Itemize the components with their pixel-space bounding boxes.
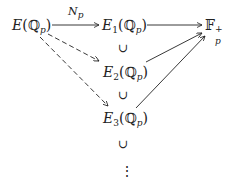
node-e2-qp: E2(ℚp) xyxy=(103,64,148,85)
paren-close: ) xyxy=(142,110,147,126)
node-e3-letter: E xyxy=(103,110,113,126)
field-q: ℚ xyxy=(124,64,136,80)
vertical-ellipsis: ⋮ xyxy=(120,164,134,178)
node-e1-letter: E xyxy=(102,17,112,33)
paren-close: ) xyxy=(142,64,147,80)
node-e-qp: E(ℚp) xyxy=(12,17,51,38)
node-fp-plus: 𝔽+p xyxy=(205,17,223,33)
node-e-letter: E xyxy=(12,17,22,33)
arrow-label-np: Np xyxy=(68,5,83,20)
field-q: ℚ xyxy=(124,110,136,126)
paren-close: ) xyxy=(141,17,146,33)
subset-symbol-3: ∪ xyxy=(118,138,128,150)
fp-sub: p xyxy=(215,33,221,49)
node-e2-letter: E xyxy=(103,64,113,80)
field-q: ℚ xyxy=(123,17,135,33)
field-f: 𝔽 xyxy=(205,17,215,33)
dashed-arrow-e-to-e3 xyxy=(40,37,108,106)
field-q: ℚ xyxy=(28,17,40,33)
label-n: N xyxy=(68,5,78,18)
node-e3-qp: E3(ℚp) xyxy=(103,110,148,131)
subset-symbol-2: ∪ xyxy=(118,89,128,101)
dashed-arrow-e-to-e2 xyxy=(48,34,99,61)
label-sub: p xyxy=(78,10,84,20)
subset-symbol-1: ∪ xyxy=(118,42,128,54)
node-e1-qp: E1(ℚp) xyxy=(102,17,147,38)
paren-close: ) xyxy=(46,17,51,33)
